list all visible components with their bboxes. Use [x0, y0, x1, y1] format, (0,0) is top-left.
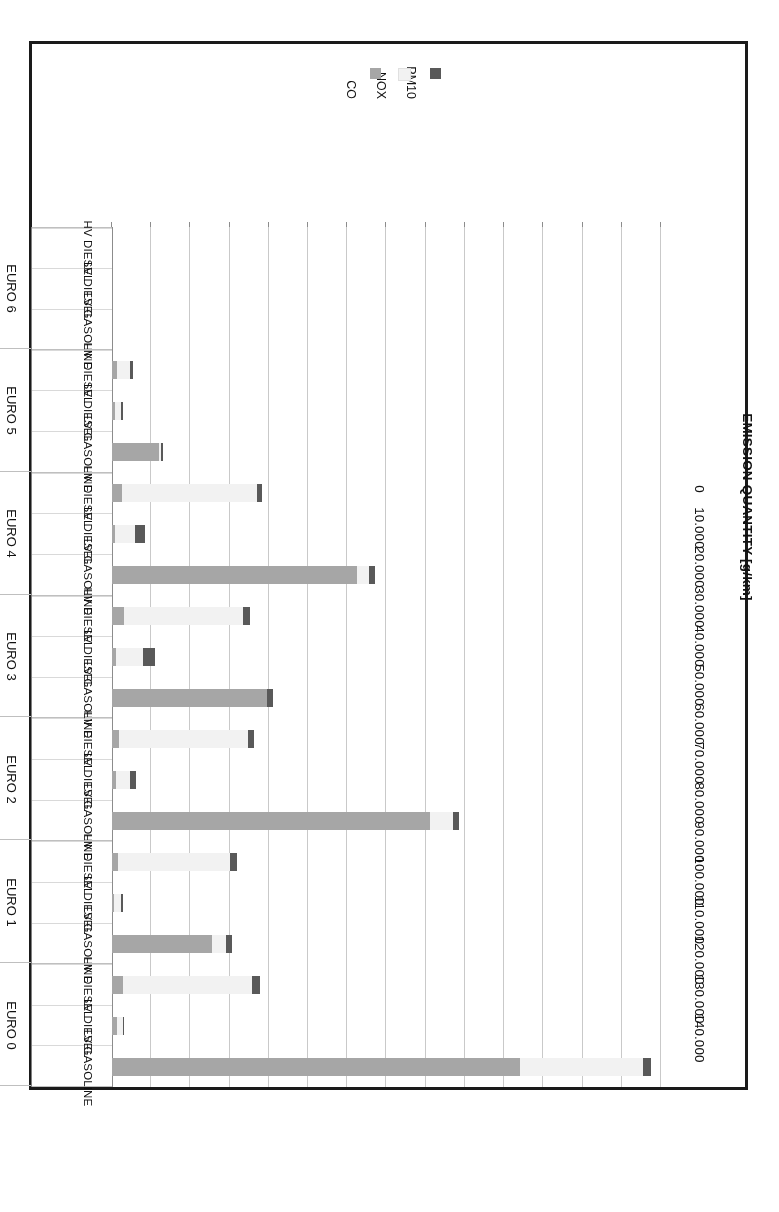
bar-row[interactable] [112, 361, 661, 379]
bar-segment-pm10[interactable] [121, 894, 123, 912]
bar-row[interactable] [112, 1058, 661, 1076]
bar-segment-co[interactable] [112, 689, 267, 707]
axis-tick-mark [189, 222, 190, 227]
bar-segment-pm10[interactable] [643, 1058, 651, 1076]
bar-segment-nox[interactable] [115, 525, 135, 543]
bar-segment-pm10[interactable] [267, 689, 273, 707]
legend-swatch-nox [398, 68, 411, 81]
bar-row[interactable] [112, 853, 661, 871]
bar-row[interactable] [112, 279, 661, 297]
category-group-label-slot: EURO 3 [0, 596, 32, 718]
bar-segment-nox[interactable] [118, 853, 230, 871]
category-cell: LV DIESEL [32, 759, 112, 800]
category-group-euro-3: LV GASOLINELV DIESELHV DIESELEURO 3 [32, 596, 112, 719]
bar-segment-nox[interactable] [122, 484, 257, 502]
bar-row[interactable] [112, 812, 661, 830]
bar-segment-pm10[interactable] [226, 935, 232, 953]
legend-swatch-pm10 [430, 68, 441, 79]
bar-segment-pm10[interactable] [243, 607, 250, 625]
axis-tick-mark [503, 222, 504, 227]
bar-segment-co[interactable] [112, 730, 119, 748]
bar-segment-co[interactable] [112, 935, 212, 953]
legend-item-co[interactable]: CO [363, 62, 385, 182]
category-group-label: EURO 1 [5, 832, 20, 972]
bar-segment-pm10[interactable] [135, 525, 145, 543]
bar-row[interactable] [112, 1017, 661, 1035]
bar-row[interactable] [112, 402, 661, 420]
bar-segment-nox[interactable] [124, 607, 244, 625]
bar-segment-pm10[interactable] [248, 730, 254, 748]
category-cell: HV DIESEL [32, 350, 112, 391]
bar-segment-nox[interactable] [119, 730, 248, 748]
axis-tick-mark [542, 222, 543, 227]
bar-segment-pm10[interactable] [161, 443, 163, 461]
category-axis: LV GASOLINELV DIESELHV DIESELEURO 0LV GA… [32, 227, 112, 1087]
bar-row[interactable] [112, 771, 661, 789]
bar-segment-nox[interactable] [116, 771, 130, 789]
category-group-label: EURO 2 [5, 709, 20, 849]
bar-segment-nox[interactable] [430, 812, 454, 830]
bar-segment-pm10[interactable] [257, 484, 262, 502]
category-cell: HV DIESEL [32, 228, 112, 268]
category-group-euro-4: LV GASOLINELV DIESELHV DIESELEURO 4 [32, 473, 112, 596]
bar-row[interactable] [112, 648, 661, 666]
value-axis-title: EMISSION QUANTITY [g/km] [740, 357, 755, 657]
bar-segment-nox[interactable] [123, 976, 252, 994]
bar-segment-pm10[interactable] [130, 771, 136, 789]
bar-row[interactable] [112, 976, 661, 994]
bar-segment-co[interactable] [112, 566, 357, 584]
bar-segment-co[interactable] [112, 443, 159, 461]
bar-segment-pm10[interactable] [121, 402, 123, 420]
bar-segment-nox[interactable] [520, 1058, 644, 1076]
bar-row[interactable] [112, 894, 661, 912]
bar-row[interactable] [112, 607, 661, 625]
bar-segment-pm10[interactable] [230, 853, 237, 871]
bar-segment-co[interactable] [112, 607, 124, 625]
legend-item-nox[interactable]: NOX [393, 62, 415, 182]
bar-row[interactable] [112, 525, 661, 543]
bar-row[interactable] [112, 320, 661, 338]
rotated-chart-stage: EMISSION QUANTITY [g/km] 140.000130.0001… [32, 44, 745, 1087]
bar-segment-co[interactable] [112, 976, 123, 994]
axis-tick-mark [386, 222, 387, 227]
bar-segment-nox[interactable] [116, 648, 143, 666]
bar-segment-pm10[interactable] [130, 361, 132, 379]
bar-segment-nox[interactable] [114, 894, 121, 912]
bar-row[interactable] [112, 238, 661, 256]
category-group-label: EURO 0 [5, 955, 20, 1095]
bar-segment-nox[interactable] [212, 935, 226, 953]
bar-segment-co[interactable] [112, 1058, 520, 1076]
category-cell: LV GASOLINE [32, 677, 112, 718]
bar-segment-pm10[interactable] [453, 812, 459, 830]
bar-segment-pm10[interactable] [369, 566, 375, 584]
bar-segment-pm10[interactable] [252, 976, 260, 994]
category-group-label: EURO 5 [5, 341, 20, 481]
legend-item-pm10[interactable]: PM10 [423, 62, 445, 182]
bar-segment-pm10[interactable] [143, 648, 155, 666]
bar-row[interactable] [112, 689, 661, 707]
category-cell: LV DIESEL [32, 636, 112, 677]
bar-segment-pm10[interactable] [123, 1017, 124, 1035]
axis-tick-mark [621, 222, 622, 227]
bar-row[interactable] [112, 935, 661, 953]
bar-segment-co[interactable] [112, 484, 122, 502]
bar-row[interactable] [112, 443, 661, 461]
chart-area: EMISSION QUANTITY [g/km] 140.000130.0001… [32, 44, 745, 1087]
category-cell: LV DIESEL [32, 391, 112, 432]
bar-row[interactable] [112, 484, 661, 502]
bar-row[interactable] [112, 730, 661, 748]
bar-segment-nox[interactable] [117, 361, 131, 379]
category-group-euro-2: LV GASOLINELV DIESELHV DIESELEURO 2 [32, 718, 112, 841]
category-group-euro-0: LV GASOLINELV DIESELHV DIESELEURO 0 [32, 964, 112, 1087]
category-group-euro-5: LV GASOLINELV DIESELHV DIESELEURO 5 [32, 350, 112, 473]
value-axis-tick-label: 0 [692, 454, 707, 524]
axis-tick-mark [660, 222, 661, 227]
category-cell: LV GASOLINE [32, 554, 112, 595]
category-cell: LV GASOLINE [32, 309, 112, 349]
axis-tick-mark [425, 222, 426, 227]
bar-row[interactable] [112, 566, 661, 584]
category-cell: HV DIESEL [32, 596, 112, 637]
bar-segment-nox[interactable] [357, 566, 369, 584]
bar-segment-co[interactable] [112, 812, 430, 830]
axis-tick-mark [307, 222, 308, 227]
